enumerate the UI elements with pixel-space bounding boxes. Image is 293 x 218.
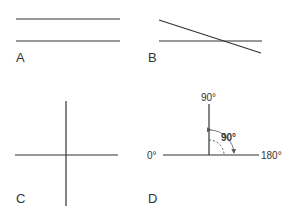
panel-b-label: B: [148, 50, 157, 65]
panel-d: 90° 0° 180° 90° D: [147, 92, 282, 206]
panel-d-label: D: [148, 191, 157, 206]
panel-a: A: [16, 19, 120, 65]
label-180: 180°: [261, 150, 282, 161]
diagonal-line: [159, 20, 261, 53]
panel-b: B: [148, 20, 262, 65]
lines-diagram: A B C 90° 0° 180° 90° D: [0, 0, 293, 218]
angle-label: 90°: [221, 132, 236, 143]
label-0: 0°: [147, 150, 157, 161]
panel-a-label: A: [16, 50, 25, 65]
panel-c: C: [15, 101, 118, 206]
label-90-top: 90°: [201, 92, 216, 103]
panel-c-label: C: [16, 191, 25, 206]
